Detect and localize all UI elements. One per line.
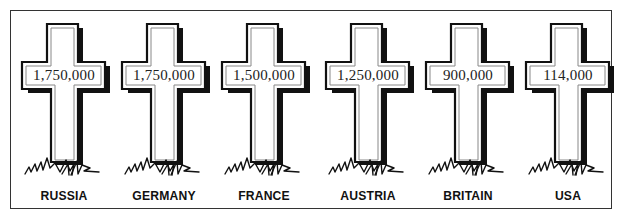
country-label: GERMANY <box>119 188 209 203</box>
country-label: RUSSIA <box>19 188 109 203</box>
country-label: FRANCE <box>219 188 309 203</box>
death-count: 1,750,000 <box>114 64 214 86</box>
cross-icon <box>318 0 418 190</box>
country-label: USA <box>523 188 613 203</box>
cross-item-france: 1,500,000 FRANCE <box>214 0 314 221</box>
cross-item-russia: 1,750,000 RUSSIA <box>14 0 114 221</box>
death-count: 900,000 <box>418 64 518 86</box>
cross-item-austria: 1,250,000 AUSTRIA <box>318 0 418 221</box>
cross-icon <box>114 0 214 190</box>
cross-icon <box>418 0 518 190</box>
cross-item-germany: 1,750,000 GERMANY <box>114 0 214 221</box>
cross-icon <box>214 0 314 190</box>
death-count: 1,750,000 <box>14 64 114 86</box>
death-count: 114,000 <box>518 64 618 86</box>
death-count: 1,500,000 <box>214 64 314 86</box>
country-label: AUSTRIA <box>323 188 413 203</box>
cross-item-britain: 900,000 BRITAIN <box>418 0 518 221</box>
cross-icon <box>518 0 618 190</box>
death-count: 1,250,000 <box>318 64 418 86</box>
country-label: BRITAIN <box>423 188 513 203</box>
cross-icon <box>14 0 114 190</box>
cross-item-usa: 114,000 USA <box>518 0 618 221</box>
